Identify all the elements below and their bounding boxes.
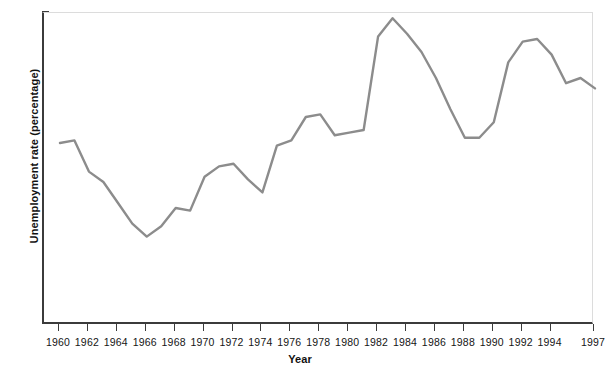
plot-area xyxy=(42,12,593,324)
x-tick-mark xyxy=(58,324,59,331)
x-tick-mark xyxy=(492,324,493,331)
x-tick-mark xyxy=(232,324,233,331)
unemployment-line xyxy=(60,18,595,236)
x-tick-mark xyxy=(174,324,175,331)
x-tick-mark xyxy=(87,324,88,331)
x-tick-mark xyxy=(203,324,204,331)
x-axis-label: Year xyxy=(0,353,600,365)
x-tick-mark xyxy=(318,324,319,331)
x-tick-mark xyxy=(434,324,435,331)
x-tick-mark xyxy=(593,324,594,331)
x-tick-mark xyxy=(145,324,146,331)
x-tick-mark xyxy=(376,324,377,331)
x-tick-mark xyxy=(550,324,551,331)
x-tick-mark xyxy=(463,324,464,331)
x-tick-label: 1997 xyxy=(570,336,609,348)
x-tick-mark xyxy=(116,324,117,331)
x-tick-mark xyxy=(260,324,261,331)
x-tick-mark xyxy=(405,324,406,331)
x-tick-mark xyxy=(289,324,290,331)
line-series xyxy=(44,13,595,325)
y-axis-label: Unemployment rate (percentage) xyxy=(28,36,40,276)
x-tick-mark xyxy=(347,324,348,331)
x-tick-label: 1994 xyxy=(527,336,573,348)
x-tick-mark xyxy=(521,324,522,331)
